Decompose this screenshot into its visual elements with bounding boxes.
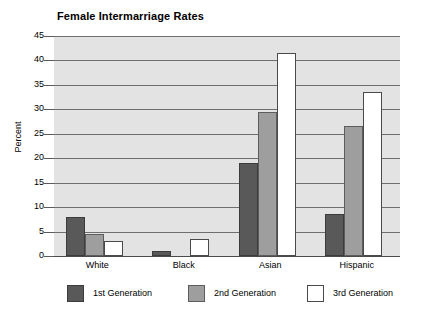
- legend-swatch-gen3: [307, 285, 324, 302]
- legend-label: 1st Generation: [93, 288, 152, 298]
- chart-container: Female Intermarriage Rates Percent 05101…: [0, 0, 421, 317]
- plot-area: [54, 36, 400, 256]
- y-axis-tick: [44, 183, 54, 184]
- y-axis-tick-label: 5: [18, 227, 44, 236]
- y-axis-tick: [44, 36, 54, 37]
- y-axis-tick: [44, 109, 54, 110]
- legend-label: 2nd Generation: [214, 288, 276, 298]
- y-axis-tick-label: 35: [18, 80, 44, 89]
- legend-item-gen2[interactable]: 2nd Generation: [188, 283, 276, 303]
- gridline: [54, 109, 400, 110]
- legend-label: 3rd Generation: [333, 288, 393, 298]
- bar-white-gen2: [85, 234, 104, 256]
- x-axis-category-label: Black: [141, 260, 228, 270]
- y-axis-tick-label: 40: [18, 55, 44, 64]
- y-axis-tick: [44, 232, 54, 233]
- y-axis-tick: [44, 85, 54, 86]
- y-axis-tick-label: 45: [18, 31, 44, 40]
- chart-title: Female Intermarriage Rates: [57, 10, 204, 22]
- y-axis-tick-label: 20: [18, 153, 44, 162]
- bar-black-gen3: [190, 239, 209, 256]
- gridline: [54, 85, 400, 86]
- gridline: [54, 36, 400, 37]
- y-axis-tick: [44, 60, 54, 61]
- legend-swatch-gen1: [67, 285, 84, 302]
- bar-black-gen1: [152, 251, 171, 256]
- y-axis-tick-label: 10: [18, 202, 44, 211]
- y-axis-tick-label: 0: [18, 251, 44, 260]
- y-axis-tick: [44, 256, 54, 257]
- y-axis-tick-label: 25: [18, 129, 44, 138]
- bar-hispanic-gen2: [344, 126, 363, 256]
- legend-swatch-gen2: [188, 285, 205, 302]
- bar-hispanic-gen3: [363, 92, 382, 256]
- y-axis-tick-labels: 051015202530354045: [0, 0, 44, 317]
- bar-hispanic-gen1: [325, 214, 344, 256]
- gridline: [54, 256, 400, 257]
- x-axis-category-label: Asian: [227, 260, 314, 270]
- y-axis-tick: [44, 207, 54, 208]
- bar-asian-gen2: [258, 112, 277, 256]
- gridline: [54, 60, 400, 61]
- legend-item-gen1[interactable]: 1st Generation: [67, 283, 152, 303]
- bar-white-gen3: [104, 241, 123, 256]
- y-axis-tick-label: 15: [18, 178, 44, 187]
- y-axis-tick-label: 30: [18, 104, 44, 113]
- bar-asian-gen1: [239, 163, 258, 256]
- x-axis-category-label: Hispanic: [314, 260, 401, 270]
- legend-item-gen3[interactable]: 3rd Generation: [307, 283, 393, 303]
- y-axis-tick: [44, 134, 54, 135]
- chart-legend: 1st Generation2nd Generation3rd Generati…: [54, 283, 400, 307]
- bar-white-gen1: [66, 217, 85, 256]
- bar-asian-gen3: [277, 53, 296, 256]
- x-axis-category-label: White: [54, 260, 141, 270]
- y-axis-tick: [44, 158, 54, 159]
